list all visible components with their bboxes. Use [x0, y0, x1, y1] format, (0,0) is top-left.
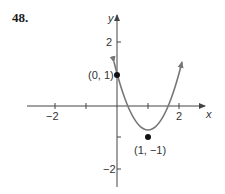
point-label-0-1: (0, 1): [88, 69, 114, 81]
point-label-1-neg1: (1, −1): [134, 144, 166, 156]
y-axis-label: y: [107, 12, 115, 24]
point-1-neg1: [145, 134, 151, 140]
x-tick-label-2: 2: [176, 110, 182, 122]
x-tick-label-neg2: −2: [46, 110, 59, 122]
point-0-1: [114, 72, 120, 78]
y-tick-label-neg2: −2: [103, 163, 116, 175]
graph: −2 2 2 −2 x y (0, 1) (1, −1): [0, 0, 225, 194]
x-axis-label: x: [205, 108, 212, 120]
parabola-curve: [114, 62, 182, 130]
y-tick-label-2: 2: [106, 36, 112, 48]
